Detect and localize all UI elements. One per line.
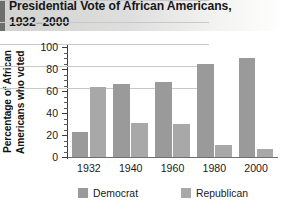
y-tick-mark-minor <box>64 86 68 87</box>
bar-republican-1980 <box>215 145 232 157</box>
title-accent-bar <box>0 0 5 31</box>
x-axis-label-1980: 1980 <box>192 162 236 174</box>
y-tick-mark-minor <box>64 130 68 131</box>
x-axis-label-1960: 1960 <box>151 162 195 174</box>
y-axis-label-80: 80 <box>28 63 58 75</box>
y-axis-title-line-1: Percentage of African <box>2 44 13 160</box>
y-tick-mark-minor <box>64 124 68 125</box>
y-tick-mark-minor <box>64 102 68 103</box>
y-axis-title: Percentage of African Americans who vote… <box>0 44 34 160</box>
y-tick-mark-minor <box>64 141 68 142</box>
legend-swatch-republican <box>181 188 191 198</box>
bar-republican-1960 <box>173 124 190 157</box>
legend-swatch-democrat <box>78 188 88 198</box>
bar-democrat-1960 <box>155 82 172 157</box>
y-axis-label-0: 0 <box>28 151 58 163</box>
y-axis-label-100: 100 <box>28 41 58 53</box>
x-axis-label-2000: 2000 <box>234 162 278 174</box>
y-tick-mark-minor <box>64 53 68 54</box>
y-tick-mark <box>62 135 68 136</box>
bar-democrat-1932 <box>72 132 89 157</box>
y-axis-label-40: 40 <box>28 107 58 119</box>
legend-item-republican[interactable]: Republican <box>181 186 248 200</box>
bar-democrat-1940 <box>113 84 130 157</box>
y-tick-mark <box>62 69 68 70</box>
y-tick-mark <box>62 113 68 114</box>
y-axis-label-60: 60 <box>28 85 58 97</box>
x-axis-label-1932: 1932 <box>67 162 111 174</box>
gridline <box>0 22 209 23</box>
bar-republican-1940 <box>131 123 148 157</box>
y-axis-label-20: 20 <box>28 129 58 141</box>
bar-republican-1932 <box>90 87 107 157</box>
y-tick-mark <box>62 157 68 158</box>
y-tick-mark <box>62 91 68 92</box>
x-axis-line <box>67 157 278 158</box>
y-tick-mark-minor <box>64 146 68 147</box>
bar-democrat-2000 <box>239 58 256 157</box>
bar-republican-2000 <box>257 149 274 157</box>
bar-democrat-1980 <box>197 64 214 158</box>
legend-item-democrat[interactable]: Democrat <box>78 186 138 200</box>
y-tick-mark-minor <box>64 152 68 153</box>
y-tick-mark-minor <box>64 75 68 76</box>
gridline <box>0 0 209 1</box>
y-tick-mark-minor <box>64 58 68 59</box>
y-tick-mark-minor <box>64 80 68 81</box>
y-tick-mark-minor <box>64 97 68 98</box>
x-axis-label-1940: 1940 <box>109 162 153 174</box>
chart-figure: Presidential Vote of African Americans, … <box>0 0 285 209</box>
y-tick-mark <box>62 47 68 48</box>
legend-label-republican: Republican <box>196 188 248 199</box>
y-tick-mark-minor <box>64 108 68 109</box>
legend: Democrat Republican <box>68 186 278 202</box>
y-axis-title-line-2: Americans who voted <box>15 44 26 160</box>
y-tick-mark-minor <box>64 119 68 120</box>
legend-label-democrat: Democrat <box>93 188 138 199</box>
y-tick-mark-minor <box>64 64 68 65</box>
page-title: Presidential Vote of African Americans, … <box>9 0 281 30</box>
